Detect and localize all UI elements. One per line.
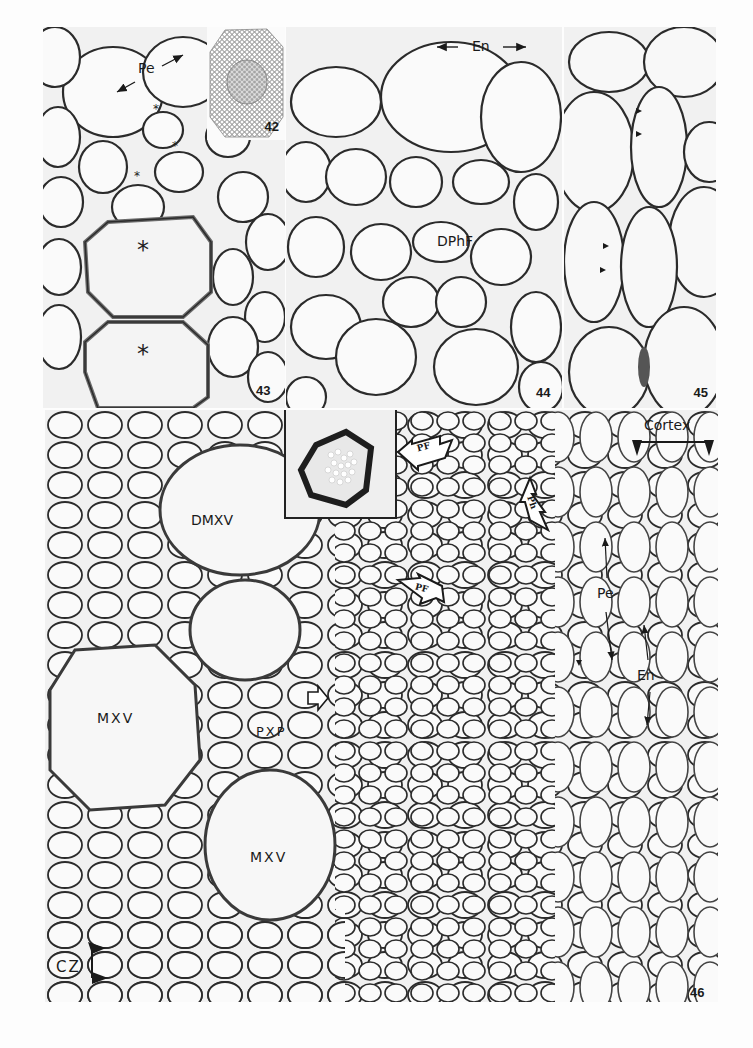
panel-44-cell-texture — [286, 27, 562, 408]
label-pxp: PXP — [256, 725, 287, 738]
label-cz: CZ — [56, 960, 81, 975]
label-cortex: Cortex — [644, 418, 690, 432]
marker-star-5: * — [137, 342, 149, 366]
panel-45-cell-texture — [564, 27, 716, 408]
panel-45: 45 — [564, 27, 716, 408]
label-pe-panel43: Pe — [138, 61, 155, 75]
label-mxv-upper: MXV — [97, 711, 134, 725]
panel-46-number: 46 — [690, 985, 704, 1000]
panel-42-number: 42 — [265, 119, 279, 134]
label-dphf: DPhF — [437, 234, 473, 248]
label-pe-panel46: Pe — [597, 586, 614, 600]
panel-46-inset — [284, 410, 397, 519]
label-en-panel44: En — [472, 39, 490, 53]
label-en-panel46: En — [637, 668, 655, 682]
marker-star-3: * — [134, 170, 140, 182]
marker-star-2: * — [172, 140, 178, 152]
marker-star-4: * — [137, 238, 149, 262]
inset-sieve-element — [286, 410, 395, 517]
marker-star-1: * — [153, 103, 159, 115]
label-mxv-lower: MXV — [250, 850, 287, 864]
panel-44-number: 44 — [536, 385, 550, 400]
panel-45-number: 45 — [694, 385, 708, 400]
panel-42-inset: 42 — [207, 27, 285, 140]
panel-43-number: 43 — [256, 383, 270, 398]
panel-44 — [286, 27, 562, 408]
label-dmxv: DMXV — [191, 513, 233, 527]
